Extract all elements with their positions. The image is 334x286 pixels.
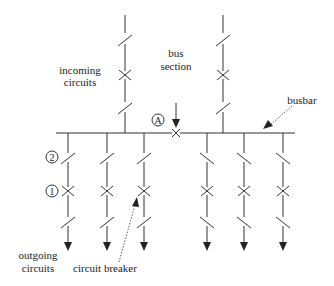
marker-2: 2 — [46, 151, 58, 163]
marker-a: A — [152, 114, 164, 126]
bus-section-breaker — [172, 129, 180, 137]
outgoing-feeder-2 — [100, 133, 114, 251]
bus-section-arrow-icon — [172, 103, 180, 128]
outgoing-circuits-label-1: outgoing — [18, 249, 58, 261]
outgoing-feeder-3 — [137, 133, 151, 251]
incoming-feeder-1 — [118, 15, 132, 133]
outgoing-feeder-5 — [237, 133, 251, 251]
marker-1: 1 — [46, 185, 58, 197]
circuit-breaker-pointer-arrow-icon — [119, 197, 139, 262]
outgoing-circuits-label-2: circuits — [22, 262, 54, 274]
outgoing-feeder-4 — [200, 133, 214, 251]
outgoing-feeder-6 — [276, 133, 290, 251]
incoming-circuits-label-1: incoming — [59, 64, 101, 76]
bus-section-label-2: section — [160, 60, 192, 72]
marker-a-label: A — [154, 115, 162, 126]
busbar-label: busbar — [287, 94, 317, 106]
switchgear-diagram: A — [0, 0, 334, 286]
outgoing-feeder-1 — [61, 133, 75, 251]
circuit-breaker-label: circuit breaker — [73, 262, 137, 274]
marker-1-label: 1 — [50, 186, 55, 197]
marker-2-label: 2 — [50, 152, 55, 163]
busbar-pointer-arrow-icon — [263, 106, 292, 129]
bus-section-label-1: bus — [168, 47, 183, 59]
incoming-circuits-label-2: circuits — [64, 76, 96, 88]
incoming-feeder-2 — [216, 15, 230, 133]
